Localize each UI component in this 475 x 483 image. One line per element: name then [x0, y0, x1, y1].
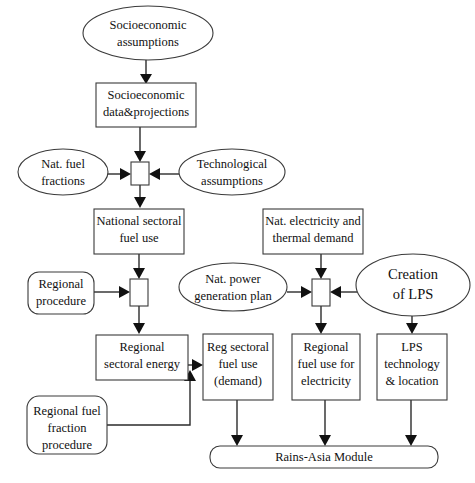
edge-merge-regional-to-regional-sectoral — [133, 306, 145, 334]
edge-regional-sectoral-to-reg-fuel-use — [188, 359, 203, 371]
edge-nat-electricity-to-merge-elec — [315, 254, 327, 279]
node-label-regional-sectoral-energy-line2: sectoral energy — [104, 357, 181, 371]
node-label-socio-assumptions-line1: Socioeconomic — [109, 18, 187, 32]
node-label-regional-fuel-elec-line3: electricity — [301, 374, 352, 388]
node-label-socio-data-line2: data&projections — [103, 105, 189, 119]
edge-socio-assumptions-to-data — [140, 60, 152, 84]
node-technological-assumptions: Technological assumptions — [179, 149, 285, 195]
node-label-creation-lps-line1: Creation — [388, 266, 439, 282]
node-label-lps-tech-line2: technology — [384, 357, 440, 371]
node-reg-sectoral-fuel-use: Reg sectoral fuel use (demand) — [203, 334, 273, 400]
node-merge-electricity — [312, 279, 330, 306]
edge-lps-tech-to-module — [405, 400, 417, 446]
node-regional-procedure: Regional procedure — [28, 272, 94, 314]
node-label-regional-procedure-line1: Regional — [38, 277, 84, 291]
node-label-technological-assumptions-line2: assumptions — [201, 174, 263, 188]
node-label-socio-data-line1: Socioeconomic — [107, 88, 185, 102]
node-regional-fuel-fraction-procedure: Regional fuel fraction procedure — [27, 396, 107, 454]
node-nat-fuel-fractions: Nat. fuel fractions — [18, 149, 108, 195]
edge-regional-fuel-elec-to-module — [319, 400, 331, 446]
node-label-fuel-fraction-proc-line3: procedure — [42, 438, 92, 452]
edge-national-sectoral-to-merge-regional — [133, 254, 145, 279]
node-nat-electricity-thermal-demand: Nat. electricity and thermal demand — [263, 209, 363, 254]
node-label-nat-fuel-fractions-line2: fractions — [41, 174, 85, 188]
node-regional-sectoral-energy: Regional sectoral energy — [96, 335, 188, 380]
node-merge-national — [131, 162, 149, 185]
edge-lps-to-lps-tech — [406, 316, 418, 334]
node-label-regional-procedure-line2: procedure — [36, 294, 86, 308]
node-lps-technology-location: LPS technology & location — [377, 334, 447, 400]
node-merge-regional — [130, 279, 148, 306]
edge-regional-procedure-to-merge — [94, 286, 130, 298]
edge-reg-fuel-use-to-module — [231, 400, 243, 446]
edge-lps-to-merge-elec — [330, 286, 357, 298]
node-label-regional-sectoral-energy-line1: Regional — [119, 340, 165, 354]
node-label-lps-tech-line1: LPS — [401, 340, 423, 354]
node-label-reg-sectoral-fuel-use-line2: fuel use — [218, 357, 258, 371]
node-label-national-sectoral-line2: fuel use — [119, 231, 159, 245]
node-socio-assumptions: Socioeconomic assumptions — [83, 6, 213, 60]
node-label-technological-assumptions-line1: Technological — [197, 157, 268, 171]
node-label-fuel-fraction-proc-line1: Regional fuel — [33, 404, 101, 418]
node-label-power-plan-line2: generation plan — [194, 289, 272, 303]
node-label-reg-sectoral-fuel-use-line1: Reg sectoral — [207, 340, 270, 354]
node-label-fuel-fraction-proc-line2: fraction — [48, 421, 88, 435]
edge-merge-elec-to-regional-fuel-elec — [315, 306, 327, 334]
edge-socio-data-to-merge — [134, 127, 146, 162]
edge-power-plan-to-merge-elec — [287, 286, 312, 298]
node-rains-asia-module: Rains-Asia Module — [210, 446, 438, 468]
node-label-nat-electricity-line2: thermal demand — [273, 231, 355, 245]
node-label-creation-lps-line2: of LPS — [393, 286, 434, 302]
node-layer: Socioeconomic assumptions Socioeconomic … — [18, 6, 470, 468]
node-label-regional-fuel-elec-line2: fuel use for — [298, 357, 356, 371]
node-label-nat-electricity-line1: Nat. electricity and — [265, 214, 361, 228]
node-national-sectoral-fuel-use: National sectoral fuel use — [94, 209, 184, 254]
node-label-nat-fuel-fractions-line1: Nat. fuel — [41, 157, 85, 171]
node-label-socio-assumptions-line2: assumptions — [117, 35, 179, 49]
node-socio-data: Socioeconomic data&projections — [96, 83, 196, 127]
edge-fuel-fractions-to-merge — [108, 168, 131, 180]
node-label-power-plan-line1: Nat. power — [205, 272, 261, 286]
flowchart-diagram: Socioeconomic assumptions Socioeconomic … — [0, 0, 475, 483]
node-label-national-sectoral-line1: National sectoral — [96, 214, 182, 228]
node-regional-fuel-use-electricity: Regional fuel use for electricity — [292, 334, 360, 400]
node-label-reg-sectoral-fuel-use-line3: (demand) — [214, 374, 262, 388]
node-label-lps-tech-line3: & location — [385, 374, 439, 388]
edge-merge-to-national-sectoral — [134, 185, 146, 208]
edge-tech-assumptions-to-merge — [149, 168, 179, 180]
node-label-regional-fuel-elec-line1: Regional — [303, 340, 349, 354]
flowchart-canvas: Socioeconomic assumptions Socioeconomic … — [0, 0, 475, 483]
node-label-rains-asia-module: Rains-Asia Module — [275, 450, 373, 464]
node-creation-of-lps: Creation of LPS — [356, 254, 470, 316]
node-nat-power-generation-plan: Nat. power generation plan — [179, 263, 287, 311]
